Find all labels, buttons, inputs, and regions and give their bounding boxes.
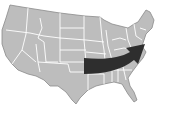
us-map-figure (0, 0, 170, 116)
us-map (0, 0, 170, 116)
